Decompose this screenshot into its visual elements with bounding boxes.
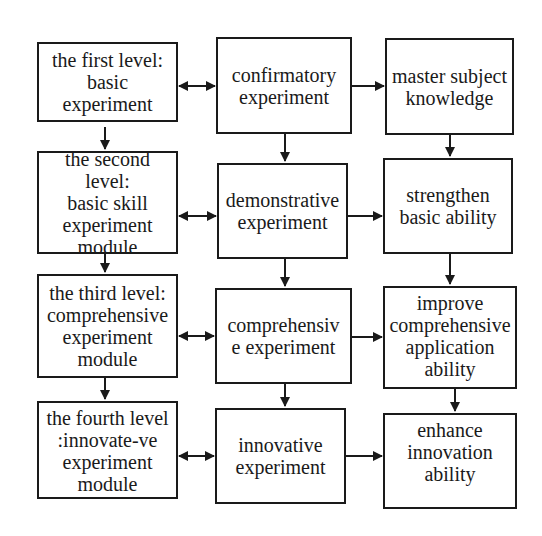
demonstrative-experiment-box: demonstrative experiment	[217, 163, 348, 259]
level-3-box: the third level: comprehensive experimen…	[37, 274, 178, 378]
level-2-box: the second level: basic skill experiment…	[37, 151, 178, 254]
level-4-box: the fourth level :innovate-ve experiment…	[37, 401, 178, 499]
master-subject-knowledge-box: master subject knowledge	[385, 38, 514, 135]
level-1-box: the first level: basic experiment	[37, 42, 178, 122]
innovative-experiment-box: innovative experiment	[215, 408, 346, 504]
confirmatory-experiment-box: confirmatory experiment	[216, 37, 352, 134]
improve-application-ability-box: improve comprehensive application abilit…	[383, 286, 517, 389]
strengthen-basic-ability-box: strengthen basic ability	[383, 158, 513, 254]
enhance-innovation-ability-box: enhance innovation ability	[383, 413, 517, 509]
flowchart-canvas: the first level: basic experiment the se…	[0, 0, 542, 536]
comprehensive-experiment-box: comprehensiv e experiment	[215, 288, 352, 384]
